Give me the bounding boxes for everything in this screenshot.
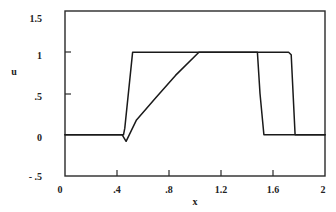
x-tick-label: 2 [321,184,326,195]
series-line-1 [65,52,325,135]
y-tick-label: 1 [37,50,42,61]
y-tick-label: - .5 [29,171,42,182]
y-ticks [65,52,71,94]
y-axis-label: u [11,66,17,77]
x-tick-label: 1.2 [215,184,228,195]
series-line-2 [65,52,325,141]
series-layer [65,52,325,141]
x-tick-labels: 0 .4 .8 1.2 1.6 2 [58,184,326,195]
y-tick-label: 0 [37,132,42,143]
x-axis-label: x [193,196,198,207]
plot-frame [65,11,325,176]
x-tick-label: 0 [58,184,63,195]
x-ticks [117,170,273,176]
line-chart: 1.5 1 .5 0 - .5 0 .4 .8 1.2 1.6 2 x u [0,0,336,212]
y-tick-labels: 1.5 1 .5 0 - .5 [29,13,42,182]
y-tick-label: 1.5 [30,13,43,24]
y-tick-label: .5 [35,91,43,102]
x-tick-label: .4 [113,184,121,195]
x-tick-label: .8 [165,184,173,195]
x-tick-label: 1.6 [267,184,280,195]
